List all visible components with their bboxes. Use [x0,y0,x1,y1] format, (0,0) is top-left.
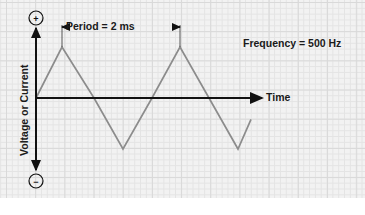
negative-symbol: − [29,177,43,187]
y-axis-label: Voltage or Current [19,55,30,165]
period-label: Period = 2 ms [66,21,135,32]
positive-symbol: + [29,14,43,24]
frequency-label: Frequency = 500 Hz [243,38,341,49]
time-axis-label: Time [266,92,290,103]
waveform-figure: + − Period = 2 ms Frequency = 500 Hz Tim… [0,0,365,215]
waveform-plot [0,0,365,215]
